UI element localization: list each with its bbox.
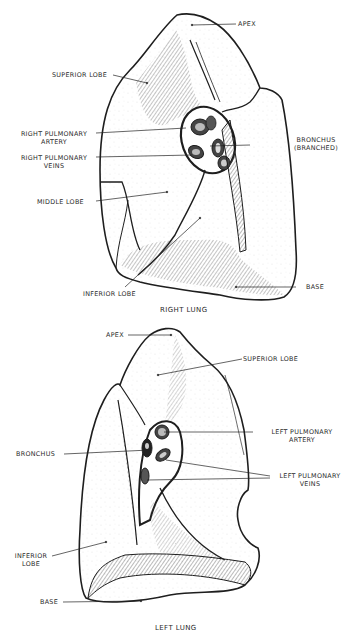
left-inferior-lobe-label: INFERIOR LOBE	[10, 552, 52, 568]
right-base-label: BASE	[306, 283, 324, 291]
right-lung-title: RIGHT LUNG	[160, 306, 207, 314]
left-pulmonary-artery-line1: LEFT PULMONARY	[262, 428, 342, 436]
lung-diagram: APEX SUPERIOR LOBE RIGHT PULMONARY ARTER…	[0, 0, 352, 639]
left-pulmonary-artery-label: LEFT PULMONARY ARTERY	[262, 428, 342, 444]
right-inferior-lobe-label: INFERIOR LOBE	[83, 290, 136, 298]
left-bronchus-label: BRONCHUS	[16, 450, 55, 458]
right-pulmonary-artery-line2: ARTERY	[12, 138, 96, 146]
right-pulmonary-artery-label: RIGHT PULMONARY ARTERY	[12, 130, 96, 146]
left-base-label: BASE	[40, 598, 58, 606]
left-pulmonary-veins-line1: LEFT PULMONARY	[270, 472, 350, 480]
lung-illustration	[0, 0, 352, 639]
left-inferior-lobe-line1: INFERIOR	[10, 552, 52, 560]
left-lung-title: LEFT LUNG	[155, 624, 197, 632]
left-pulmonary-artery-line2: ARTERY	[262, 436, 342, 444]
right-superior-lobe-label: SUPERIOR LOBE	[52, 71, 107, 79]
right-bronchus-line2: (BRANCHED)	[286, 144, 346, 152]
left-inferior-lobe-line2: LOBE	[10, 560, 52, 568]
right-pulmonary-veins-label: RIGHT PULMONARY VEINS	[12, 154, 96, 170]
left-pulmonary-veins-label: LEFT PULMONARY VEINS	[270, 472, 350, 488]
right-bronchus-line1: BRONCHUS	[286, 136, 346, 144]
right-middle-lobe-label: MIDDLE LOBE	[37, 198, 84, 206]
right-lung-drawing	[100, 14, 296, 300]
right-apex-label: APEX	[238, 20, 256, 28]
left-pulmonary-veins-line2: VEINS	[270, 480, 350, 488]
right-pulmonary-veins-line2: VEINS	[12, 162, 96, 170]
left-lung-drawing	[79, 328, 259, 602]
left-apex-label: APEX	[106, 331, 124, 339]
right-pulmonary-veins-line1: RIGHT PULMONARY	[12, 154, 96, 162]
left-superior-lobe-label: SUPERIOR LOBE	[243, 355, 298, 363]
right-pulmonary-artery-line1: RIGHT PULMONARY	[12, 130, 96, 138]
right-bronchus-label: BRONCHUS (BRANCHED)	[286, 136, 346, 152]
